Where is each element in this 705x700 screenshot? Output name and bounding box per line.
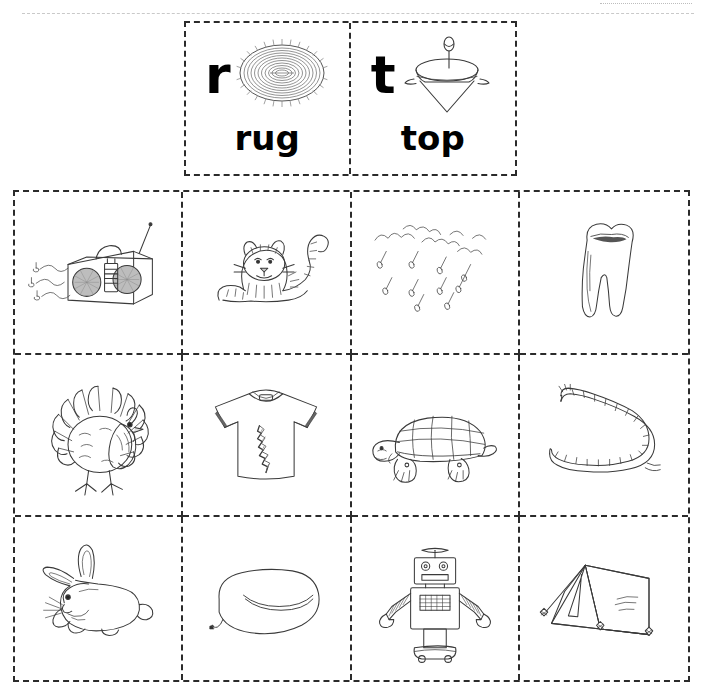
picture-cell-rain[interactable] [352,192,520,355]
spinning-top-icon [399,32,495,118]
robot-icon [360,533,510,665]
radio-icon [23,206,173,338]
picture-cell-tiger[interactable] [183,192,351,355]
ripped-shirt-icon [191,369,341,501]
picture-cell-rabbit[interactable] [15,517,183,680]
turtle-icon [360,369,510,501]
picture-cell-turkey[interactable] [15,355,183,518]
rain-icon [360,206,510,338]
picture-cell-ripped-shirt[interactable] [183,355,351,518]
picture-cell-tooth[interactable] [520,192,688,355]
braided-oval-rug-icon [234,32,330,118]
key-word-top: top [401,121,465,155]
inner-tube-icon [191,533,341,665]
key-card-rug-top: r [186,23,349,123]
picture-cell-inner-tube[interactable] [183,517,351,680]
key-letter-t: t [371,49,395,101]
worksheet-page: r [0,0,705,700]
key-word-rug: rug [235,121,300,155]
tent-icon [529,533,679,665]
rope-icon [529,369,679,501]
picture-cell-radio[interactable] [15,192,183,355]
picture-cell-rope[interactable] [520,355,688,518]
picture-card-grid [13,190,690,682]
rabbit-icon [23,533,173,665]
picture-cell-tent[interactable] [520,517,688,680]
picture-cell-turtle[interactable] [352,355,520,518]
top-rule-divider [22,13,694,14]
key-card-rug[interactable]: r [186,23,351,174]
turkey-icon [23,369,173,501]
tooth-icon [529,206,679,338]
key-letter-r: r [205,49,230,101]
key-card-top[interactable]: t top [351,23,516,174]
key-card-top-top: t [351,23,516,123]
picture-cell-robot[interactable] [352,517,520,680]
tiger-icon [191,206,341,338]
key-card-band: r [184,21,517,176]
top-rule-right-fragment [600,3,692,4]
